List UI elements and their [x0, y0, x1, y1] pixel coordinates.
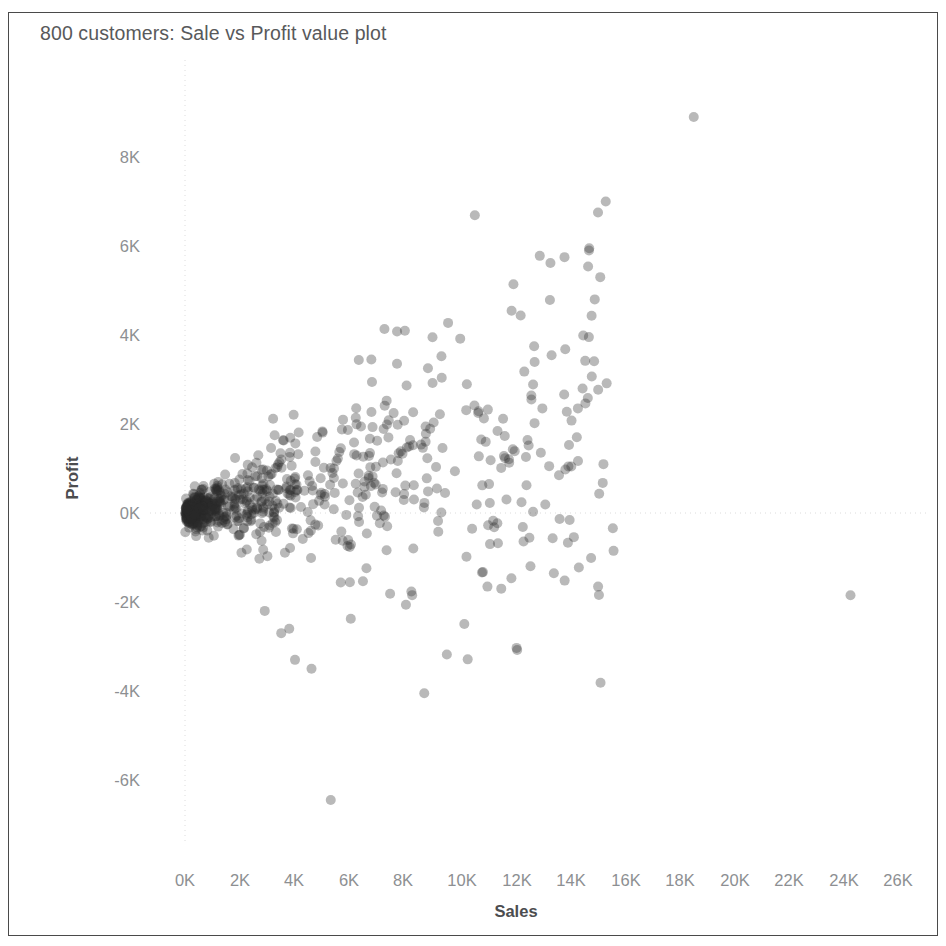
scatter-plot-area[interactable] — [0, 0, 946, 946]
data-point — [545, 258, 555, 268]
data-point — [320, 500, 330, 510]
data-point — [366, 481, 376, 491]
data-point — [545, 295, 555, 305]
data-point — [500, 431, 510, 441]
data-point — [276, 628, 286, 638]
data-point — [303, 507, 313, 517]
data-point — [400, 481, 410, 491]
data-point — [204, 533, 214, 543]
data-point — [212, 481, 222, 491]
data-point — [266, 443, 276, 453]
data-point — [560, 252, 570, 262]
data-point — [530, 357, 540, 367]
data-point — [358, 576, 368, 586]
data-point — [428, 332, 438, 342]
data-point — [540, 500, 550, 510]
data-point — [402, 380, 412, 390]
data-point — [353, 511, 363, 521]
x-tick-label: 12K — [487, 871, 547, 890]
data-point — [368, 422, 378, 432]
data-point — [442, 649, 452, 659]
data-point — [329, 504, 339, 514]
data-point — [496, 584, 506, 594]
data-point — [431, 462, 441, 472]
data-point — [230, 453, 240, 463]
data-point — [409, 480, 419, 490]
data-point — [336, 527, 346, 537]
data-point — [362, 529, 372, 539]
data-point — [367, 377, 377, 387]
data-point — [461, 552, 471, 562]
data-point — [313, 521, 323, 531]
data-point — [341, 510, 351, 520]
data-point — [320, 489, 330, 499]
data-point — [501, 495, 511, 505]
data-point — [258, 507, 268, 517]
data-point — [438, 443, 448, 453]
data-point — [428, 378, 438, 388]
data-point — [486, 455, 496, 465]
data-point — [433, 527, 443, 537]
data-point — [559, 389, 569, 399]
y-tick-label: -6K — [80, 771, 140, 790]
data-point — [299, 486, 309, 496]
data-point — [346, 614, 356, 624]
data-point — [594, 489, 604, 499]
data-point — [405, 435, 415, 445]
data-point — [416, 440, 426, 450]
data-point — [338, 536, 348, 546]
data-point — [535, 251, 545, 261]
data-point — [336, 577, 346, 587]
data-point — [524, 440, 534, 450]
data-point — [422, 473, 432, 483]
data-point — [560, 344, 570, 354]
data-point — [274, 503, 284, 513]
data-point — [212, 496, 222, 506]
data-point — [423, 486, 433, 496]
data-point — [230, 478, 240, 488]
data-point — [583, 262, 593, 272]
data-point — [242, 468, 252, 478]
data-point — [566, 462, 576, 472]
data-point — [382, 545, 392, 555]
data-point — [463, 654, 473, 664]
data-point — [408, 407, 418, 417]
data-point — [521, 452, 531, 462]
data-point — [383, 432, 393, 442]
y-axis-title: Profit — [63, 456, 82, 499]
data-point — [372, 511, 382, 521]
data-point — [243, 506, 253, 516]
data-point — [593, 385, 603, 395]
data-point — [564, 440, 574, 450]
x-tick-label: 8K — [373, 871, 433, 890]
data-point — [512, 643, 522, 653]
data-point — [436, 508, 446, 518]
data-point — [476, 434, 486, 444]
data-point — [589, 356, 599, 366]
data-point — [290, 438, 300, 448]
data-point — [518, 522, 528, 532]
data-point — [492, 518, 502, 528]
data-point — [506, 573, 516, 583]
data-point — [333, 454, 343, 464]
data-point — [181, 503, 191, 513]
data-point — [510, 446, 520, 456]
data-point — [549, 568, 559, 578]
x-tick-label: 20K — [705, 871, 765, 890]
data-point — [548, 533, 558, 543]
data-point — [602, 378, 612, 388]
data-point — [590, 294, 600, 304]
data-point — [258, 479, 268, 489]
data-point — [455, 334, 465, 344]
data-point — [220, 469, 230, 479]
data-point — [354, 355, 364, 365]
data-point — [326, 795, 336, 805]
data-point — [459, 619, 469, 629]
y-tick-label: -4K — [80, 682, 140, 701]
data-point — [408, 543, 418, 553]
y-tick-label: 6K — [80, 237, 140, 256]
data-point — [226, 491, 236, 501]
data-point — [325, 480, 335, 490]
data-point — [587, 372, 597, 382]
data-point — [262, 551, 272, 561]
